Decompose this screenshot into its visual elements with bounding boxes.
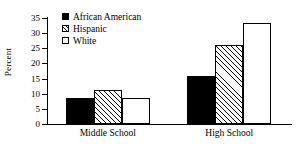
legend-item: White — [62, 35, 141, 46]
bar — [243, 23, 271, 124]
legend-swatch-icon — [62, 13, 69, 20]
legend-swatch-icon — [62, 25, 69, 32]
legend-item-label: Hispanic — [73, 24, 107, 34]
bar — [66, 98, 94, 124]
y-axis-tick-label: 30 — [14, 29, 40, 38]
y-axis-tick — [42, 48, 47, 49]
y-axis-tick-label: 15 — [14, 74, 40, 83]
y-axis-tick-label: 10 — [14, 89, 40, 98]
y-axis-tick-label: 0 — [14, 120, 40, 129]
legend-item-label: African American — [73, 12, 141, 22]
bar-chart: Percent 05101520253035 African AmericanH… — [0, 0, 296, 148]
y-axis-tick-label: 25 — [14, 44, 40, 53]
bar — [215, 45, 243, 124]
y-axis-tick — [42, 124, 47, 125]
legend-swatch-icon — [62, 37, 69, 44]
legend-item: Hispanic — [62, 23, 141, 34]
x-axis-group-label: High School — [169, 128, 291, 138]
y-axis-tick — [42, 63, 47, 64]
x-axis-group-label: Middle School — [47, 128, 169, 138]
y-axis-tick — [42, 33, 47, 34]
y-axis-tick — [42, 18, 47, 19]
x-axis-line — [47, 124, 292, 125]
y-axis-tick-label: 35 — [14, 14, 40, 23]
bar — [94, 90, 122, 124]
y-axis-tick-labels: 05101520253035 — [12, 0, 40, 148]
y-axis-tick-label: 5 — [14, 104, 40, 113]
y-axis-tick — [42, 94, 47, 95]
y-axis-tick — [42, 79, 47, 80]
bar — [187, 76, 215, 124]
bar — [122, 98, 150, 124]
y-axis-tick — [42, 109, 47, 110]
legend-item-label: White — [73, 36, 96, 46]
y-axis-tick-label: 20 — [14, 59, 40, 68]
chart-legend: African AmericanHispanicWhite — [62, 11, 141, 47]
legend-item: African American — [62, 11, 141, 22]
